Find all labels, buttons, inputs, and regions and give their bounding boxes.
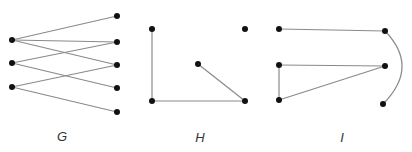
vertex bbox=[149, 26, 155, 32]
graph-h bbox=[149, 26, 248, 104]
vertex bbox=[276, 97, 282, 103]
graph-i-label: I bbox=[340, 130, 344, 145]
edge bbox=[279, 65, 385, 66]
graph-g-label: G bbox=[57, 129, 67, 144]
vertex bbox=[9, 37, 15, 43]
edge bbox=[279, 66, 385, 100]
vertex bbox=[114, 85, 120, 91]
vertex bbox=[114, 109, 120, 115]
edge bbox=[12, 87, 117, 112]
vertex bbox=[114, 39, 120, 45]
vertex bbox=[242, 26, 248, 32]
vertex bbox=[114, 13, 120, 19]
graph-g bbox=[9, 13, 120, 115]
vertex bbox=[9, 84, 15, 90]
edge bbox=[12, 42, 117, 63]
edge bbox=[198, 64, 245, 101]
vertex bbox=[380, 101, 386, 107]
vertex bbox=[149, 98, 155, 104]
vertex bbox=[195, 61, 201, 67]
vertex bbox=[382, 63, 388, 69]
vertex bbox=[382, 28, 388, 34]
edge bbox=[12, 16, 117, 40]
graph-h-label: H bbox=[195, 130, 204, 145]
edge bbox=[12, 40, 117, 42]
graph-i bbox=[276, 26, 402, 107]
vertex bbox=[242, 98, 248, 104]
vertex bbox=[114, 62, 120, 68]
vertex bbox=[276, 26, 282, 32]
vertex bbox=[276, 62, 282, 68]
edge bbox=[279, 29, 385, 31]
vertex bbox=[9, 60, 15, 66]
